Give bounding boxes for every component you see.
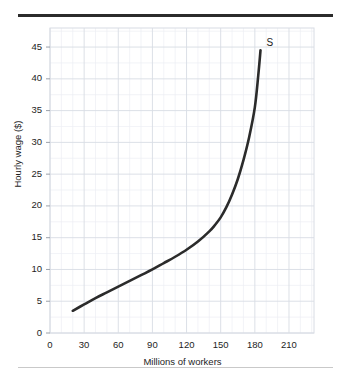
y-tick-label: 35 — [20, 104, 42, 115]
supply-curve-label: S — [267, 37, 274, 48]
x-tick-label: 210 — [277, 339, 301, 350]
chart-plot-svg — [0, 0, 353, 382]
y-tick-label: 15 — [20, 231, 42, 242]
y-tick-label: 40 — [20, 72, 42, 83]
x-tick-label: 120 — [175, 339, 199, 350]
x-tick-label: 150 — [209, 339, 233, 350]
x-tick-label: 30 — [72, 339, 96, 350]
x-tick-label: 90 — [140, 339, 164, 350]
bottom-rule-divider — [18, 367, 333, 368]
y-tick-label: 45 — [20, 41, 42, 52]
supply-curve-chart: Hourly wage ($) Millions of workers 0510… — [0, 0, 353, 382]
y-tick-label: 10 — [20, 263, 42, 274]
figure-container: Hourly wage ($) Millions of workers 0510… — [0, 0, 353, 382]
y-tick-label: 20 — [20, 199, 42, 210]
x-tick-label: 0 — [38, 339, 62, 350]
plot-border — [50, 28, 314, 333]
y-tick-label: 5 — [20, 295, 42, 306]
x-axis-label-text: Millions of workers — [143, 356, 221, 367]
grid-minor — [50, 28, 314, 333]
grid-major — [50, 28, 314, 333]
axis-ticks — [46, 47, 50, 333]
x-tick-label: 60 — [106, 339, 130, 350]
y-tick-label: 25 — [20, 168, 42, 179]
x-tick-label: 180 — [243, 339, 267, 350]
y-tick-label: 0 — [20, 327, 42, 338]
y-tick-label: 30 — [20, 136, 42, 147]
